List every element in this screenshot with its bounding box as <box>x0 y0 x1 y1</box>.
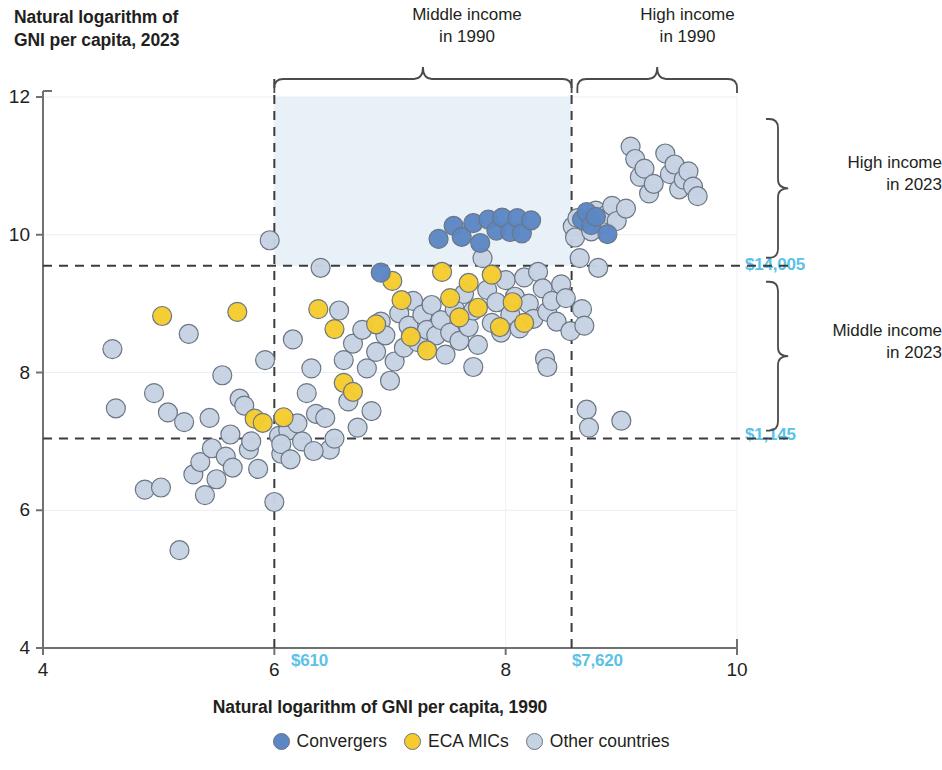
x-axis-title: Natural logarithm of GNI per capita, 199… <box>0 697 760 718</box>
data-point <box>459 273 478 292</box>
data-point <box>367 315 386 334</box>
data-point <box>538 357 557 376</box>
data-point <box>309 300 328 319</box>
data-point <box>151 478 170 497</box>
data-point <box>249 459 268 478</box>
data-point <box>106 399 125 418</box>
data-point <box>179 324 198 343</box>
data-point <box>175 413 194 432</box>
data-point <box>228 302 247 321</box>
data-point <box>260 231 279 250</box>
chart-figure: Natural logarithm of GNI per capita, 202… <box>0 0 942 770</box>
brace-right <box>766 119 788 258</box>
legend-label-other-countries: Other countries <box>550 731 670 752</box>
y-tick-label: 4 <box>19 637 30 658</box>
legend-item-other-countries: Other countries <box>526 731 670 752</box>
data-point <box>316 408 335 427</box>
data-point <box>503 293 522 312</box>
data-point <box>401 327 420 346</box>
data-point <box>362 402 381 421</box>
legend-label-convergers: Convergers <box>297 731 387 752</box>
data-point <box>265 492 284 511</box>
y-tick-label: 6 <box>19 499 30 520</box>
data-point <box>297 384 316 403</box>
data-point <box>357 359 376 378</box>
scatter-plot-canvas: 468101246810 <box>0 0 942 770</box>
legend-swatch-convergers <box>273 733 290 750</box>
x-tick-label: 10 <box>726 659 747 680</box>
legend-swatch-eca-mics <box>404 733 421 750</box>
data-point <box>468 335 487 354</box>
data-point <box>207 470 226 489</box>
data-point <box>223 458 242 477</box>
data-point <box>612 411 631 430</box>
data-point <box>274 408 293 427</box>
data-point <box>302 359 321 378</box>
data-point <box>570 249 589 268</box>
data-point <box>195 486 214 505</box>
legend-item-eca-mics: ECA MICs <box>404 731 509 752</box>
brace-right <box>766 282 788 431</box>
data-point <box>575 316 594 335</box>
data-point <box>418 341 437 360</box>
data-point <box>464 357 483 376</box>
data-point <box>436 345 455 364</box>
data-point <box>589 258 608 277</box>
data-point <box>256 351 275 370</box>
data-point <box>441 289 460 308</box>
data-point <box>371 263 390 282</box>
data-point <box>213 366 232 385</box>
data-point <box>325 429 344 448</box>
data-point <box>573 300 592 319</box>
data-point <box>200 408 219 427</box>
y-tick-label: 8 <box>19 362 30 383</box>
data-point <box>304 442 323 461</box>
data-point <box>515 313 534 332</box>
data-point <box>343 382 362 401</box>
data-point <box>367 342 386 361</box>
data-point <box>221 425 240 444</box>
data-point <box>468 298 487 317</box>
data-point <box>153 307 172 326</box>
x-tick-label: 6 <box>269 659 280 680</box>
data-point <box>145 384 164 403</box>
data-point <box>330 301 349 320</box>
legend-swatch-other-countries <box>526 733 543 750</box>
data-point <box>392 291 411 310</box>
data-point <box>348 418 367 437</box>
data-point <box>253 413 272 432</box>
data-point <box>522 211 541 230</box>
data-point <box>433 262 452 281</box>
legend-item-convergers: Convergers <box>273 731 387 752</box>
data-point <box>556 289 575 308</box>
data-point <box>242 432 261 451</box>
data-point <box>311 258 330 277</box>
data-point <box>598 225 617 244</box>
data-point <box>450 308 469 327</box>
x-tick-label: 4 <box>38 659 49 680</box>
data-point <box>482 265 501 284</box>
data-point <box>325 320 344 339</box>
data-point <box>490 318 509 337</box>
data-point <box>283 330 302 349</box>
data-point <box>334 351 353 370</box>
brace-top <box>274 67 571 93</box>
data-point <box>429 229 448 248</box>
data-point <box>616 199 635 218</box>
y-tick-label: 10 <box>9 224 30 245</box>
x-tick-label: 8 <box>500 659 511 680</box>
legend-label-eca-mics: ECA MICs <box>428 731 509 752</box>
data-point <box>577 400 596 419</box>
data-point <box>281 450 300 469</box>
data-point <box>381 371 400 390</box>
y-tick-label: 12 <box>9 86 30 107</box>
data-point <box>586 207 605 226</box>
brace-top <box>577 67 737 93</box>
data-point <box>170 541 189 560</box>
data-point <box>579 418 598 437</box>
data-point <box>471 234 490 253</box>
chart-legend: Convergers ECA MICs Other countries <box>0 731 942 752</box>
data-point <box>103 340 122 359</box>
data-point <box>688 187 707 206</box>
